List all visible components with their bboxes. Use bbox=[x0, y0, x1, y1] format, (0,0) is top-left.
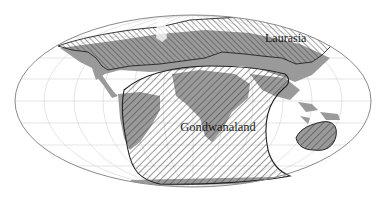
laurasia-gap bbox=[156, 18, 167, 42]
world-map: Laurasia Gondwanaland bbox=[0, 0, 387, 199]
laurasia-label: Laurasia bbox=[265, 32, 306, 44]
gondwanaland-label: Gondwanaland bbox=[180, 121, 256, 134]
map-canvas bbox=[0, 0, 387, 199]
